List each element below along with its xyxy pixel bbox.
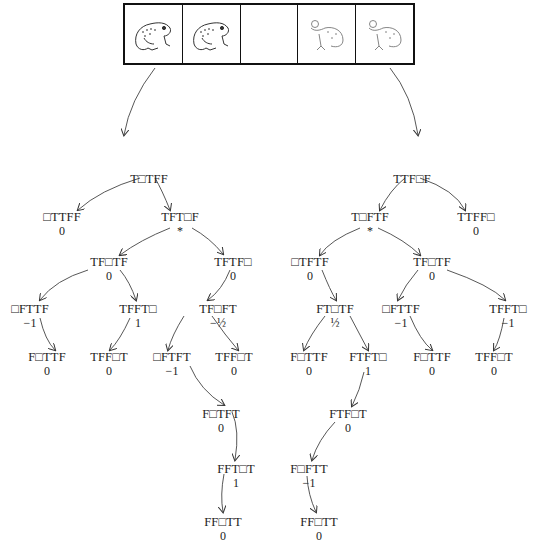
tree-node: T□FTF * — [351, 210, 389, 238]
node-value: 0 — [329, 421, 367, 435]
node-value: 0 — [90, 269, 128, 283]
tree-node: FT□TF ½ — [316, 302, 354, 330]
tree-node: □TFTF 0 — [291, 255, 329, 283]
node-value: −1 — [489, 316, 527, 330]
node-label: □TTFF — [43, 210, 81, 224]
tree-node: FFT□T 1 — [217, 462, 255, 490]
node-label: TFFT□ — [489, 302, 527, 316]
tree-node: TFFT□ 1 — [119, 302, 157, 330]
tree-node: □FTFT −1 — [153, 350, 191, 378]
node-value: 0 — [413, 269, 451, 283]
node-label: FF□TT — [204, 515, 242, 529]
tree-edges — [0, 0, 537, 549]
node-label: F□FTT — [290, 462, 328, 476]
node-label: TTF□F — [393, 172, 431, 186]
tree-node: TFFT□ −1 — [489, 302, 527, 330]
tree-node: TFF□T 0 — [90, 350, 128, 378]
node-label: TF□TF — [90, 255, 128, 269]
node-value: * — [351, 224, 389, 238]
node-label: □FTTF — [382, 302, 420, 316]
tree-node: FTFT□ 1 — [349, 350, 387, 378]
node-value: * — [161, 224, 199, 238]
tree-node-left-root: T□TFF — [130, 172, 168, 186]
node-label: T□TFF — [130, 172, 168, 186]
node-value: 1 — [217, 476, 255, 490]
tree-node: □TTFF 0 — [43, 210, 81, 238]
node-label: T□FTF — [351, 210, 389, 224]
node-value: 0 — [90, 364, 128, 378]
tree-node: F□TTF 0 — [413, 350, 451, 378]
tree-node: F□FTT −1 — [290, 462, 328, 490]
tree-node: □FTTF −1 — [382, 302, 420, 330]
node-value: 1 — [349, 364, 387, 378]
tree-node: TF□FT −½ — [199, 302, 237, 330]
node-label: FT□TF — [316, 302, 354, 316]
node-label: TFF□T — [90, 350, 128, 364]
node-value: 0 — [300, 529, 338, 543]
node-value: −1 — [382, 316, 420, 330]
node-label: TFF□T — [215, 350, 253, 364]
tree-node: F□TTF 0 — [28, 350, 66, 378]
tree-node: TFTF□ 0 — [214, 255, 252, 283]
node-label: □FTTF — [11, 302, 49, 316]
node-label: FTF□T — [329, 407, 367, 421]
tree-node: TTFF□ 0 — [457, 210, 495, 238]
node-value: −½ — [199, 316, 237, 330]
node-value: 0 — [413, 364, 451, 378]
node-value: 0 — [215, 364, 253, 378]
node-value: 0 — [475, 364, 513, 378]
node-value: 0 — [457, 224, 495, 238]
node-value: 0 — [291, 269, 329, 283]
node-value: 0 — [290, 364, 328, 378]
node-label: F□TTF — [290, 350, 328, 364]
node-value: ½ — [316, 316, 354, 330]
tree-node: TF□TF 0 — [413, 255, 451, 283]
node-value: 1 — [119, 316, 157, 330]
tree-node-right-root: TTF□F — [393, 172, 431, 186]
node-value: −1 — [290, 476, 328, 490]
node-label: TTFF□ — [457, 210, 495, 224]
tree-node: □FTTF −1 — [11, 302, 49, 330]
node-value: 0 — [202, 421, 240, 435]
node-label: FFT□T — [217, 462, 255, 476]
node-value: 0 — [43, 224, 81, 238]
node-label: □FTFT — [153, 350, 191, 364]
tree-node: FTF□T 0 — [329, 407, 367, 435]
node-value: 0 — [204, 529, 242, 543]
tree-node: FF□TT 0 — [300, 515, 338, 543]
node-label: F□TFT — [202, 407, 240, 421]
tree-node: TFF□T 0 — [215, 350, 253, 378]
node-label: TF□FT — [199, 302, 237, 316]
tree-node: F□TFT 0 — [202, 407, 240, 435]
node-label: F□TTF — [28, 350, 66, 364]
node-label: TFF□T — [475, 350, 513, 364]
node-value: 0 — [214, 269, 252, 283]
node-label: FF□TT — [300, 515, 338, 529]
node-value: −1 — [153, 364, 191, 378]
node-value: −1 — [11, 316, 49, 330]
node-label: TFFT□ — [119, 302, 157, 316]
node-label: TFT□F — [161, 210, 199, 224]
node-label: FTFT□ — [349, 350, 387, 364]
node-label: TF□TF — [413, 255, 451, 269]
tree-node: FF□TT 0 — [204, 515, 242, 543]
node-value: 0 — [28, 364, 66, 378]
tree-node: TFF□T 0 — [475, 350, 513, 378]
node-label: F□TTF — [413, 350, 451, 364]
node-label: □TFTF — [291, 255, 329, 269]
tree-node: TF□TF 0 — [90, 255, 128, 283]
tree-node: TFT□F * — [161, 210, 199, 238]
node-label: TFTF□ — [214, 255, 252, 269]
tree-node: F□TTF 0 — [290, 350, 328, 378]
